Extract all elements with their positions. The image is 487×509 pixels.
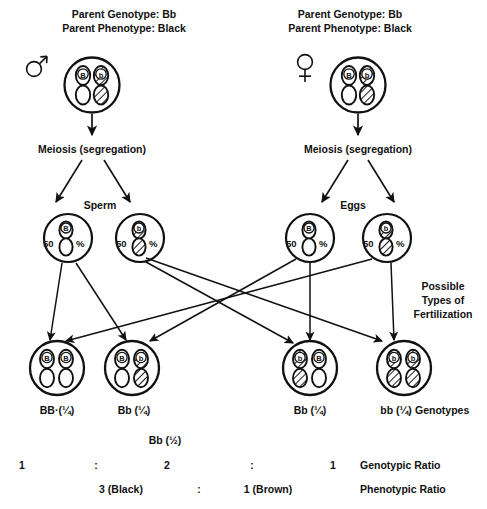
arrow-meiosis-to-sperm-b — [104, 160, 130, 202]
phenotypic-ratio-name: Phenotypic Ratio — [360, 483, 446, 495]
offspring-cell-Bb-1: B b — [105, 341, 159, 395]
offspring-row-caption: Genotypes — [415, 404, 469, 416]
svg-text:b: b — [384, 224, 389, 233]
svg-text:B: B — [119, 354, 125, 363]
fertilization-note: Possible Types of Fertilization — [414, 279, 473, 322]
female-meiosis-label: Meiosis (segregation) — [304, 143, 412, 155]
arrow-eggb-to-BB — [66, 259, 372, 341]
male-parent-phenotype-label: Parent Phenotype: Black — [62, 22, 186, 34]
eggs-group-label: Eggs — [340, 199, 366, 211]
svg-text:B: B — [80, 71, 86, 80]
svg-text:B: B — [316, 354, 322, 363]
arrow-spermB-to-BB — [50, 263, 62, 340]
arrow-eggB-to-Bb1 — [150, 259, 296, 341]
female-parent-phenotype-label: Parent Phenotype: Black — [288, 22, 412, 34]
svg-text:b: b — [392, 354, 397, 363]
offspring-cell-bb: b b — [377, 341, 431, 395]
male-meiosis-label: Meiosis (segregation) — [38, 143, 146, 155]
genotypic-value-2: 2 — [164, 459, 170, 471]
svg-text:b: b — [137, 224, 142, 233]
arrow-spermB-to-Bb1 — [76, 263, 126, 340]
svg-text:b: b — [365, 71, 370, 80]
offspring-label-Bb-1: Bb (¼) — [118, 404, 151, 416]
sperm-B-percent-value: 50 — [43, 238, 54, 249]
phenotypic-value-2: 1 (Brown) — [244, 483, 292, 495]
svg-text:b: b — [139, 354, 144, 363]
egg-B-percent-value: 50 — [286, 238, 297, 249]
svg-text:b: b — [298, 354, 303, 363]
svg-text:B: B — [44, 354, 50, 363]
svg-text:B: B — [306, 224, 311, 233]
sperm-B-percent-sign: % — [76, 238, 84, 249]
genotypic-value-3: 1 — [330, 459, 336, 471]
genotypic-value-1: 1 — [19, 459, 25, 471]
offspring-label-bb: bb (¼) — [380, 404, 412, 416]
svg-text:b: b — [99, 71, 104, 80]
sperm-group-label: Sperm — [84, 199, 117, 211]
svg-text:B: B — [63, 354, 69, 363]
svg-text:B: B — [63, 224, 68, 233]
genetics-cross-diagram: B b B b — [0, 0, 487, 509]
svg-text:b: b — [411, 354, 416, 363]
sperm-b-percent-value: 50 — [116, 238, 127, 249]
diagram-artwork: B b B b — [0, 0, 487, 509]
egg-b-percent-value: 50 — [363, 238, 374, 249]
genotypic-ratio-name: Genotypic Ratio — [360, 459, 441, 471]
offspring-label-Bb-2: Bb (¼) — [294, 404, 327, 416]
male-parent-cell: B b — [65, 58, 120, 113]
phenotypic-value-1: 3 (Black) — [99, 483, 143, 495]
phenotypic-sep-1: : — [197, 483, 201, 495]
egg-b-percent-sign: % — [396, 238, 404, 249]
genotypic-sep-2: : — [250, 459, 254, 471]
arrow-meiosis-to-sperm-B — [56, 160, 82, 202]
offspring-cell-BB: B B — [30, 341, 84, 395]
offspring-cell-Bb-2: b B — [283, 341, 337, 395]
genotypic-sep-1: : — [94, 459, 98, 471]
arrow-meiosis-to-egg-B — [322, 160, 348, 202]
female-parent-cell: B b — [331, 58, 386, 113]
heterozygote-combined-label: Bb (½) — [149, 434, 182, 446]
svg-text:B: B — [346, 71, 352, 80]
sperm-b-percent-sign: % — [149, 238, 157, 249]
male-symbol-icon — [27, 56, 47, 76]
arrow-meiosis-to-egg-b — [368, 160, 394, 202]
arrow-eggb-to-bb — [391, 263, 394, 340]
arrow-spermb-to-bb — [146, 258, 382, 341]
female-symbol-icon — [298, 55, 313, 82]
female-parent-genotype-label: Parent Genotype: Bb — [298, 8, 402, 20]
egg-B-percent-sign: % — [319, 238, 327, 249]
male-parent-genotype-label: Parent Genotype: Bb — [72, 8, 176, 20]
offspring-label-BB: BB·(¼) — [40, 404, 74, 416]
